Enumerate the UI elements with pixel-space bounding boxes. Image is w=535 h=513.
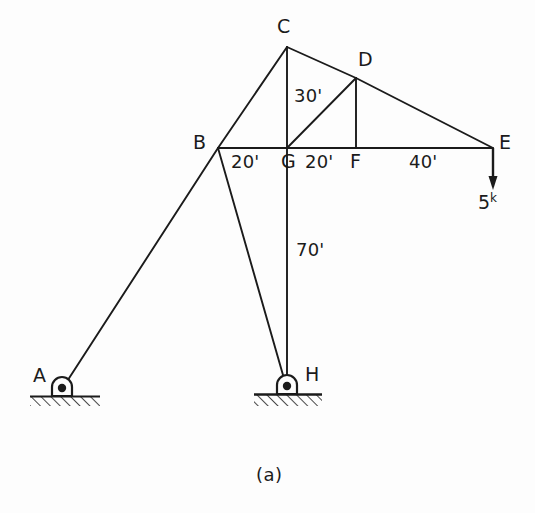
figure-caption: (a) (256, 464, 283, 485)
support-A-pin (58, 384, 66, 392)
dimension-C-G: 30' (294, 85, 322, 106)
dimension-B-G: 20' (231, 151, 259, 172)
truss-diagram (0, 0, 535, 513)
node-label-C: C (277, 15, 290, 37)
member-D-E (356, 78, 493, 148)
dimension-G-H: 70' (296, 239, 324, 260)
truss-members (64, 47, 493, 386)
member-B-H (218, 148, 285, 382)
support-A-hatching (30, 397, 100, 406)
node-label-G: G (281, 150, 296, 172)
support-H-pin (283, 382, 291, 390)
figure-canvas: A B C D E F G H 20' 20' 40' 30' 70' 5k (… (0, 0, 535, 513)
dimension-F-E: 40' (409, 151, 437, 172)
node-label-H: H (305, 363, 320, 385)
node-label-B: B (193, 131, 206, 153)
member-C-D (287, 47, 356, 78)
load-arrow-group (489, 148, 498, 190)
member-A-B (64, 148, 218, 386)
node-label-A: A (33, 364, 46, 386)
node-label-D: D (358, 48, 373, 70)
node-label-E: E (499, 131, 511, 153)
member-B-C (218, 47, 287, 148)
load-magnitude: 5 (478, 191, 490, 213)
load-label: 5k (478, 191, 497, 213)
load-arrow-head (489, 176, 498, 190)
support-H-hatching (254, 395, 322, 406)
node-label-F: F (350, 150, 361, 172)
load-unit: k (490, 191, 497, 205)
dimension-G-F: 20' (305, 151, 333, 172)
